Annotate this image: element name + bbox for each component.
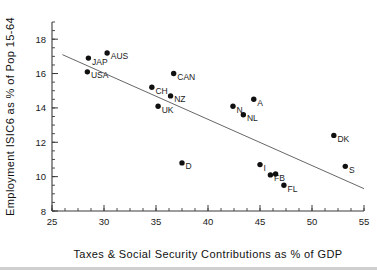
plot-area: 2530354045505581012141618JAPAUSUSACANCHN… [0, 0, 377, 270]
x-axis-title: Taxes & Social Security Contributions as… [73, 248, 342, 260]
data-point[interactable] [85, 69, 90, 74]
data-point[interactable] [168, 93, 173, 98]
data-point-label: S [349, 165, 355, 175]
data-point[interactable] [281, 183, 286, 188]
scatter-chart: 2530354045505581012141618JAPAUSUSACANCHN… [0, 0, 377, 270]
x-axis-tick-label: 50 [307, 216, 318, 227]
y-axis-title: Employment ISIC6 as % of Pop 15-64 [4, 17, 16, 216]
data-point[interactable] [257, 162, 262, 167]
data-point[interactable] [251, 97, 256, 102]
data-point-label: B [279, 173, 285, 183]
y-axis-tick-label: 8 [41, 206, 46, 217]
data-point-label: UK [162, 105, 174, 115]
data-point-label: AUS [111, 51, 129, 61]
data-point-label: A [257, 98, 263, 108]
x-axis-tick-label: 35 [151, 216, 162, 227]
data-point-label: CAN [177, 72, 195, 82]
x-axis-tick-label: 25 [47, 216, 58, 227]
data-point-label: D [186, 161, 192, 171]
data-point-label: NL [247, 113, 258, 123]
data-point[interactable] [149, 85, 154, 90]
data-point[interactable] [171, 71, 176, 76]
data-point[interactable] [241, 112, 246, 117]
data-point[interactable] [343, 164, 348, 169]
data-point-label: JAP [92, 57, 108, 67]
y-axis-tick-label: 10 [35, 171, 46, 182]
x-axis-tick-label: 55 [359, 216, 370, 227]
data-point-label: FL [288, 184, 298, 194]
data-point[interactable] [155, 103, 160, 108]
data-point-label: I [264, 163, 266, 173]
y-axis-tick-label: 12 [35, 137, 46, 148]
data-point[interactable] [273, 171, 278, 176]
x-axis-tick-label: 40 [203, 216, 214, 227]
data-point[interactable] [179, 160, 184, 165]
data-point[interactable] [268, 172, 273, 177]
data-point[interactable] [104, 50, 109, 55]
y-axis-tick-label: 18 [35, 34, 46, 45]
data-point-label: USA [91, 70, 109, 80]
x-axis-tick-label: 45 [255, 216, 266, 227]
data-point[interactable] [331, 133, 336, 138]
y-axis-tick-label: 14 [35, 102, 46, 113]
data-point-label: DK [337, 134, 349, 144]
data-point-label: NZ [174, 94, 185, 104]
data-point[interactable] [230, 103, 235, 108]
x-axis-tick-label: 30 [99, 216, 110, 227]
y-axis-tick-label: 16 [35, 68, 46, 79]
data-point-label: CH [155, 86, 167, 96]
data-point[interactable] [86, 55, 91, 60]
